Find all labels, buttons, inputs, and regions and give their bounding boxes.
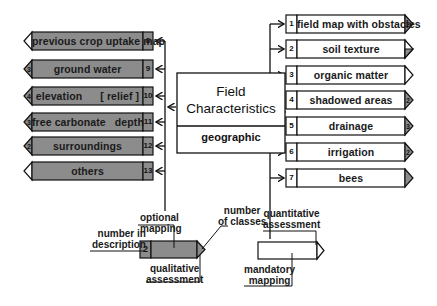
legend-text-line: number: [218, 205, 266, 216]
left-item[interactable]: elevation [ relief ] 10 4: [24, 87, 153, 105]
item-label: others: [32, 166, 143, 177]
item-class-count: 2: [404, 21, 412, 28]
item-number: 12: [143, 142, 153, 150]
center-subtitle: geographic: [178, 131, 284, 143]
legend-number-of-classes: number of classes: [218, 205, 266, 227]
legend-text-line: description: [92, 239, 146, 250]
legend-text-line: mapping: [244, 275, 295, 286]
left-connectors: [156, 41, 176, 211]
item-number: 7: [286, 174, 297, 182]
left-item[interactable]: free carbonate depth 11 3: [24, 113, 153, 131]
item-class-count: 3: [404, 123, 412, 130]
item-label: irrigation: [297, 147, 405, 158]
item-number: 5: [286, 122, 297, 130]
legend-text-line: assessment: [146, 274, 203, 285]
legend-quantitative-assessment: quantitative assessment: [263, 208, 320, 230]
left-boxes: [24, 32, 153, 180]
item-label: field map with obstacles: [297, 19, 405, 30]
item-class-count: 2: [404, 149, 412, 156]
legend-text-line: quantitative: [263, 208, 320, 219]
item-number: 9: [143, 65, 153, 73]
item-label: organic matter: [297, 70, 405, 81]
left-item[interactable]: previous crop uptake map 8: [24, 32, 153, 50]
item-class-count: 2: [25, 143, 33, 150]
legend-text-line: assessment: [263, 219, 320, 230]
right-item[interactable]: 4 shadowed areas 2: [286, 91, 413, 109]
item-number: 4: [286, 96, 297, 104]
right-item[interactable]: 1 field map with obstacles 2: [286, 15, 413, 33]
item-label: shadowed areas: [297, 95, 405, 106]
item-class-count: 4: [25, 93, 33, 100]
legend-text-line: mandatory: [244, 264, 295, 275]
item-label: previous crop uptake map: [32, 36, 143, 47]
item-label: bees: [297, 173, 405, 184]
left-item[interactable]: surroundings 12 2: [24, 137, 153, 155]
legend-number-in-description: number in description: [92, 228, 146, 250]
right-item[interactable]: 5 drainage 3: [286, 117, 413, 135]
legend-qualitative-assessment: qualitative assessment: [146, 263, 203, 285]
legend-text-line: mapping: [140, 223, 182, 234]
item-label: drainage: [297, 121, 405, 132]
right-item[interactable]: 2 soil texture: [286, 40, 413, 58]
right-item[interactable]: 6 irrigation 2: [286, 143, 413, 161]
item-number: 3: [286, 71, 297, 79]
left-item[interactable]: others 13: [24, 162, 153, 180]
item-class-count: 3: [25, 119, 33, 126]
right-item[interactable]: 3 organic matter: [286, 66, 413, 84]
item-number: 10: [143, 92, 153, 100]
item-class-count: 3: [25, 66, 33, 73]
legend-mandatory-mapping: mandatory mapping: [244, 264, 295, 286]
item-label: ground water: [32, 64, 143, 75]
item-number: 1: [286, 20, 297, 28]
item-number: 13: [143, 167, 153, 175]
item-label: free carbonate depth: [32, 117, 143, 128]
item-number: 8: [143, 37, 153, 45]
center-title-line1: Field: [178, 83, 284, 100]
legend-text-line: number in: [92, 228, 146, 239]
item-label: elevation [ relief ]: [32, 91, 143, 102]
legend-text-line: optional: [140, 212, 182, 223]
item-label: soil texture: [297, 44, 405, 55]
center-title: Field Characteristics: [178, 83, 284, 117]
right-item[interactable]: 7 bees: [286, 169, 413, 187]
item-number: 2: [286, 45, 297, 53]
item-class-count: 2: [404, 97, 412, 104]
legend-text-line: qualitative: [146, 263, 203, 274]
legend-text-line: of classes: [218, 216, 266, 227]
item-label: surroundings: [32, 141, 143, 152]
center-title-line2: Characteristics: [178, 100, 284, 117]
legend-optional-mapping: optional mapping: [140, 212, 182, 234]
item-number: 11: [143, 118, 153, 126]
left-item[interactable]: ground water 9 3: [24, 60, 153, 78]
legend-shapes: [140, 241, 324, 259]
item-number: 6: [286, 148, 297, 156]
